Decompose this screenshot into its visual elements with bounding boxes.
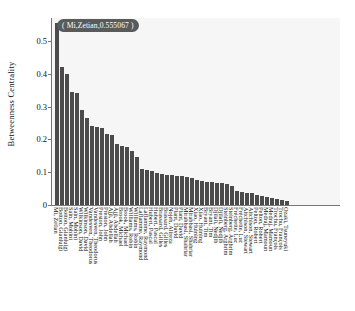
bar[interactable] bbox=[285, 201, 289, 205]
y-tick-label: 0.5 bbox=[36, 36, 47, 46]
bar[interactable] bbox=[65, 74, 69, 205]
bar[interactable] bbox=[165, 175, 169, 205]
bar[interactable] bbox=[55, 23, 59, 205]
bar[interactable] bbox=[75, 93, 79, 205]
bar[interactable] bbox=[245, 193, 249, 205]
bar[interactable] bbox=[260, 196, 264, 205]
bar[interactable] bbox=[145, 170, 149, 205]
bar[interactable] bbox=[195, 180, 199, 205]
bar[interactable] bbox=[115, 144, 119, 205]
bar[interactable] bbox=[170, 175, 174, 205]
bar[interactable] bbox=[240, 192, 244, 205]
bar[interactable] bbox=[205, 182, 209, 205]
bar[interactable] bbox=[130, 151, 134, 205]
bar[interactable] bbox=[280, 200, 284, 205]
bar-series bbox=[52, 18, 340, 205]
data-point-tooltip: ( Mi,Zetian,0.555067 ) bbox=[57, 19, 139, 32]
bar[interactable] bbox=[235, 191, 239, 205]
bar[interactable] bbox=[60, 67, 64, 205]
bar[interactable] bbox=[225, 184, 229, 205]
y-tick-label: 0.3 bbox=[36, 102, 47, 112]
y-tick-label: 0 bbox=[43, 200, 47, 210]
bar[interactable] bbox=[95, 127, 99, 205]
bar[interactable] bbox=[215, 183, 219, 205]
x-axis-line bbox=[51, 205, 340, 206]
x-axis-labels: Mi, ZetianBotton, GianluigiBotton, Gianl… bbox=[51, 207, 340, 309]
bar[interactable] bbox=[125, 147, 129, 205]
bar[interactable] bbox=[80, 110, 84, 205]
bar[interactable] bbox=[105, 134, 109, 205]
y-axis-ticks: 00.10.20.30.40.5 bbox=[0, 0, 51, 188]
plot-area bbox=[51, 18, 340, 206]
bar[interactable] bbox=[100, 128, 104, 205]
bar[interactable] bbox=[135, 157, 139, 205]
x-tick-label: Ozaki, Tsuneyuki bbox=[284, 207, 288, 309]
bar[interactable] bbox=[160, 174, 164, 205]
bar[interactable] bbox=[70, 92, 74, 205]
bar[interactable] bbox=[250, 193, 254, 205]
x-tick-label-text: Ozaki, Tsuneyuki bbox=[283, 207, 290, 251]
bar[interactable] bbox=[200, 181, 204, 205]
y-tick-label: 0.2 bbox=[36, 134, 47, 144]
bar[interactable] bbox=[110, 135, 114, 205]
y-tick-label: 0.4 bbox=[36, 69, 47, 79]
bar[interactable] bbox=[265, 197, 269, 205]
bar[interactable] bbox=[175, 176, 179, 205]
bar[interactable] bbox=[220, 183, 224, 205]
chart-root: Betweenness Centrality 00.10.20.30.40.5 … bbox=[0, 0, 355, 311]
bar[interactable] bbox=[155, 173, 159, 205]
y-tick-label: 0.1 bbox=[36, 167, 47, 177]
bar[interactable] bbox=[150, 171, 154, 205]
bar[interactable] bbox=[90, 126, 94, 205]
bar[interactable] bbox=[255, 195, 259, 205]
bar[interactable] bbox=[85, 118, 89, 205]
bar[interactable] bbox=[140, 169, 144, 205]
bar[interactable] bbox=[120, 146, 124, 205]
bar[interactable] bbox=[270, 198, 274, 205]
bar[interactable] bbox=[185, 177, 189, 205]
bar[interactable] bbox=[275, 199, 279, 205]
bar[interactable] bbox=[190, 178, 194, 205]
bar[interactable] bbox=[210, 182, 214, 205]
bar[interactable] bbox=[230, 186, 234, 205]
bar[interactable] bbox=[180, 176, 184, 205]
